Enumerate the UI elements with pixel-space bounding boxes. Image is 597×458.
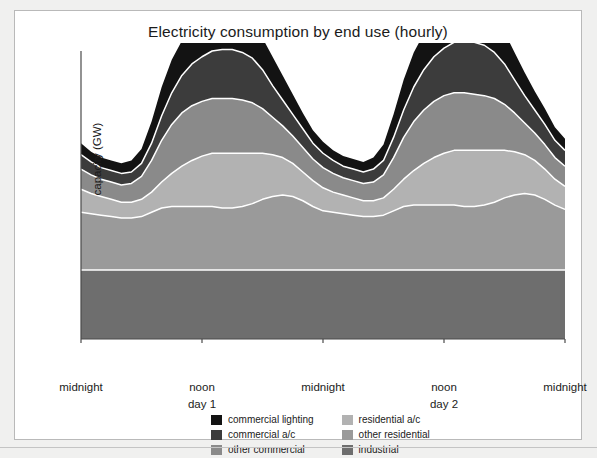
page-bottom-rule: [0, 447, 597, 448]
legend-item: other residential: [342, 428, 430, 441]
legend-label: commercial a/c: [228, 429, 295, 440]
legend-label: industrial: [359, 444, 399, 455]
legend-item: industrial: [342, 443, 430, 456]
legend-item: commercial lighting: [211, 413, 314, 426]
x-tick-label: noon: [431, 381, 457, 393]
stacked-area-plot: [53, 43, 573, 343]
legend-item: commercial a/c: [211, 428, 314, 441]
legend-swatch-commercial-ac: [211, 430, 222, 440]
legend-label: other residential: [359, 429, 430, 440]
x-tick-sublabel: day 1: [188, 398, 216, 410]
chart-legend: commercial lighting commercial a/c other…: [211, 413, 511, 456]
legend-item: other commercial: [211, 443, 314, 456]
y-axis-label: capacity (GW): [91, 99, 107, 219]
legend-label: residential a/c: [359, 414, 421, 425]
area-industrial: [81, 270, 565, 339]
page-background: Electricity consumption by end use (hour…: [0, 0, 597, 458]
legend-swatch-industrial: [342, 445, 353, 455]
legend-item: residential a/c: [342, 413, 430, 426]
x-tick-label: midnight: [301, 381, 344, 393]
plot-area: capacity (GW) midnightnoonday 1midnightn…: [53, 43, 573, 343]
chart-figure: Electricity consumption by end use (hour…: [15, 11, 581, 439]
x-tick-label: midnight: [543, 381, 586, 393]
legend-swatch-other-residential: [342, 430, 353, 440]
legend-label: other commercial: [228, 444, 305, 455]
legend-column-right: residential a/c other residential indust…: [342, 413, 430, 456]
page-title: Electricity consumption by end use (hour…: [15, 23, 581, 41]
legend-swatch-residential-ac: [342, 415, 353, 425]
figure-card: Electricity consumption by end use (hour…: [14, 10, 582, 440]
legend-label: commercial lighting: [228, 414, 314, 425]
x-tick-sublabel: day 2: [430, 398, 458, 410]
x-tick-label: midnight: [59, 381, 102, 393]
x-tick-label: noon: [189, 381, 215, 393]
legend-column-left: commercial lighting commercial a/c other…: [211, 413, 314, 456]
legend-swatch-commercial-lighting: [211, 415, 222, 425]
legend-swatch-other-commercial: [211, 445, 222, 455]
